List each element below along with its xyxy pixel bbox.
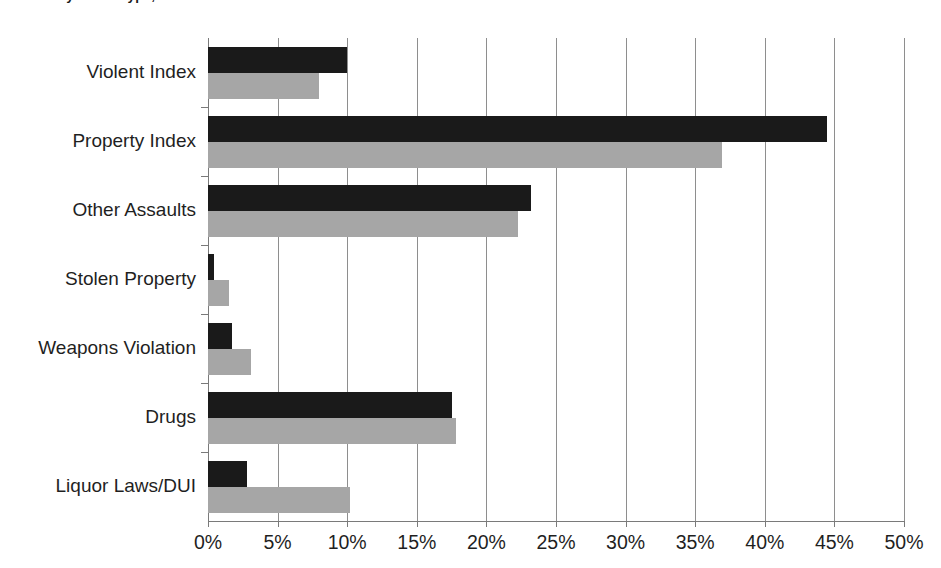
x-tick-label: 35% <box>660 531 730 554</box>
gridline-25 <box>556 38 557 521</box>
x-tick-mark <box>486 521 487 527</box>
x-tick-label: 5% <box>243 531 313 554</box>
y-tick-mark <box>201 107 208 108</box>
gridline-45 <box>834 38 835 521</box>
gridline-20 <box>486 38 487 521</box>
x-tick-mark <box>695 521 696 527</box>
bar-property-index-series-1 <box>208 116 827 142</box>
gridline-40 <box>765 38 766 521</box>
x-tick-label: 30% <box>591 531 661 554</box>
y-tick-mark <box>201 452 208 453</box>
x-tick-mark <box>208 521 209 527</box>
y-axis-label-violent-index: Violent Index <box>0 62 196 82</box>
y-tick-mark <box>201 314 208 315</box>
bar-violent-index-series-1 <box>208 47 347 73</box>
y-axis-label-property-index: Property Index <box>0 131 196 151</box>
x-tick-label: 25% <box>521 531 591 554</box>
y-axis-label-liquor-laws-dui: Liquor Laws/DUI <box>0 476 196 496</box>
bar-drugs-series-1 <box>208 392 452 418</box>
y-axis-label-weapons-violation: Weapons Violation <box>0 338 196 358</box>
x-tick-mark <box>556 521 557 527</box>
bar-other-assaults-series-1 <box>208 185 531 211</box>
bar-chart: Arrests by Crime Type, 2011 0%5%10%15%20… <box>0 0 941 568</box>
gridline-5 <box>278 38 279 521</box>
y-tick-mark <box>201 383 208 384</box>
x-tick-mark <box>417 521 418 527</box>
bar-weapons-violation-series-1 <box>208 323 232 349</box>
x-tick-mark <box>834 521 835 527</box>
x-tick-mark <box>278 521 279 527</box>
bar-property-index-series-2 <box>208 142 722 168</box>
x-tick-mark <box>347 521 348 527</box>
bar-stolen-property-series-1 <box>208 254 214 280</box>
chart-title: Arrests by Crime Type, 2011 <box>6 0 706 6</box>
y-axis-label-stolen-property: Stolen Property <box>0 269 196 289</box>
x-tick-label: 0% <box>173 531 243 554</box>
x-tick-mark <box>765 521 766 527</box>
x-tick-label: 15% <box>382 531 452 554</box>
bar-drugs-series-2 <box>208 418 456 444</box>
bar-stolen-property-series-2 <box>208 280 229 306</box>
bar-violent-index-series-2 <box>208 73 319 99</box>
x-tick-label: 20% <box>451 531 521 554</box>
gridline-15 <box>417 38 418 521</box>
gridline-30 <box>626 38 627 521</box>
bar-weapons-violation-series-2 <box>208 349 251 375</box>
y-tick-mark <box>201 176 208 177</box>
x-tick-mark <box>904 521 905 527</box>
x-tick-label: 40% <box>730 531 800 554</box>
y-axis-label-other-assaults: Other Assaults <box>0 200 196 220</box>
x-tick-label: 10% <box>312 531 382 554</box>
x-tick-label: 45% <box>799 531 869 554</box>
gridline-10 <box>347 38 348 521</box>
bar-other-assaults-series-2 <box>208 211 518 237</box>
gridline-35 <box>695 38 696 521</box>
gridline-50 <box>904 38 905 521</box>
bar-liquor-laws-dui-series-1 <box>208 461 247 487</box>
y-axis-label-drugs: Drugs <box>0 407 196 427</box>
x-tick-mark <box>626 521 627 527</box>
plot-area <box>208 38 904 521</box>
y-tick-mark <box>201 245 208 246</box>
bar-liquor-laws-dui-series-2 <box>208 487 350 513</box>
x-tick-label: 50% <box>869 531 939 554</box>
